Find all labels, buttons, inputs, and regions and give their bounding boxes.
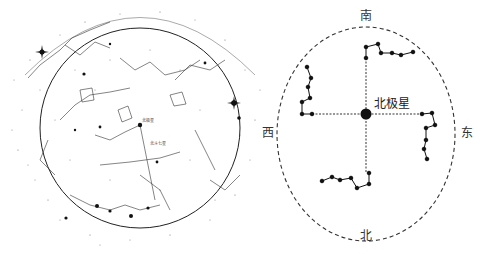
horizon-circle (40, 28, 240, 228)
star-labels: 北极星 北斗七星 (142, 117, 166, 146)
polaris-star (138, 123, 142, 127)
star-chart: 北极星 北斗七星 (0, 0, 270, 259)
big-dipper-rotation-diagram: 南 北 西 东 北极星 (270, 0, 484, 259)
background-stars (12, 11, 261, 245)
direction-west-label: 西 (262, 127, 274, 139)
dipper-svg (270, 0, 484, 259)
dipper-south (364, 42, 415, 60)
direction-east-label: 东 (461, 127, 473, 139)
bright-stars (35, 43, 241, 220)
dipper-east (420, 111, 437, 161)
polaris-text: 北极星 (142, 117, 154, 123)
ecliptic-line (25, 18, 255, 76)
polaris-label: 北极星 (374, 98, 410, 110)
polaris-dot (361, 109, 372, 120)
direction-south-label: 南 (360, 10, 372, 22)
dipper-north (320, 171, 371, 190)
direction-north-label: 北 (360, 230, 372, 242)
dipper-west (300, 65, 314, 116)
star-chart-svg: 北极星 北斗七星 (0, 0, 270, 259)
constellation-lines (28, 22, 240, 210)
big-dipper-text: 北斗七星 (150, 140, 166, 146)
